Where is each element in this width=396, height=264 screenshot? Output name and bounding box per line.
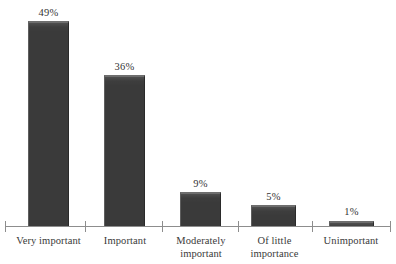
bar-group: 9% (180, 0, 221, 227)
bar-group: 36% (104, 0, 145, 227)
bar-rect[interactable] (251, 205, 296, 227)
axis-tick (312, 221, 313, 232)
category-label-line: Unimportant (306, 234, 396, 247)
x-axis-category-labels: Very important Important Moderately impo… (0, 234, 396, 264)
bar-value-label: 49% (28, 7, 69, 19)
bar-group: 1% (329, 0, 374, 227)
bar-rect[interactable] (104, 75, 145, 227)
bar-rect[interactable] (180, 192, 221, 227)
axis-tick (238, 221, 239, 232)
category-label-line: importance (232, 247, 317, 260)
axis-tick (5, 221, 6, 232)
category-label-of-little-importance: Of little importance (232, 234, 317, 260)
bar-group: 5% (251, 0, 296, 227)
category-label-line: Of little (232, 234, 317, 247)
bar-value-label: 1% (329, 206, 374, 218)
bar-group: 49% (28, 0, 69, 227)
axis-tick (162, 221, 163, 232)
x-axis-line (5, 226, 391, 227)
bar-value-label: 36% (104, 61, 145, 73)
axis-tick (85, 221, 86, 232)
plot-area: 49% 36% 9% 5% 1% (0, 0, 396, 227)
category-label-unimportant: Unimportant (306, 234, 396, 247)
axis-tick (390, 221, 391, 232)
bar-chart: 49% 36% 9% 5% 1% Very important (0, 0, 396, 264)
bar-value-label: 9% (180, 178, 221, 190)
bar-rect[interactable] (28, 21, 69, 227)
bar-value-label: 5% (251, 191, 296, 203)
